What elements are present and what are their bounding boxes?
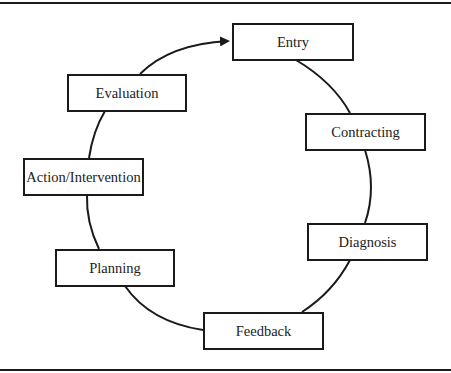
node-contracting-label: Contracting: [331, 124, 399, 141]
node-evaluation-label: Evaluation: [96, 85, 159, 102]
arc-entry-to-contracting: [296, 60, 350, 113]
arc-action-to-evaluation: [89, 111, 105, 158]
node-entry: Entry: [232, 23, 354, 61]
node-action-intervention: Action/Intervention: [23, 158, 144, 196]
arc-diagnosis-to-feedback: [302, 260, 350, 312]
node-planning-label: Planning: [89, 260, 141, 277]
node-feedback: Feedback: [203, 312, 324, 350]
node-diagnosis: Diagnosis: [307, 223, 428, 261]
node-contracting: Contracting: [305, 113, 426, 151]
node-entry-label: Entry: [277, 34, 309, 51]
node-diagnosis-label: Diagnosis: [339, 234, 397, 251]
cycle-diagram: Entry Contracting Diagnosis Feedback Pla…: [0, 0, 451, 373]
node-planning: Planning: [55, 249, 175, 287]
arc-evaluation-to-entry: [140, 41, 228, 74]
node-action-intervention-label: Action/Intervention: [26, 169, 140, 186]
arc-contracting-to-diagnosis: [365, 150, 371, 223]
node-feedback-label: Feedback: [236, 323, 292, 340]
node-evaluation: Evaluation: [67, 74, 187, 112]
arc-feedback-to-planning: [125, 286, 203, 330]
arc-planning-to-action: [87, 195, 99, 249]
